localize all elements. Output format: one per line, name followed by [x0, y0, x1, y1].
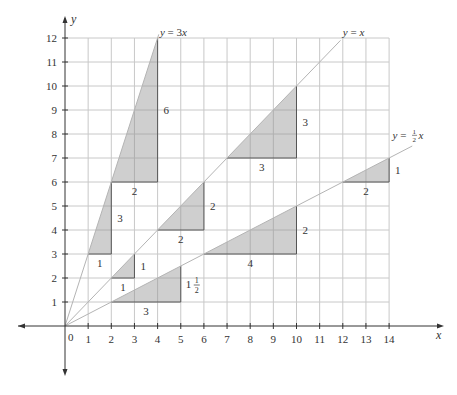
- y-axis-arrow-up-icon: [63, 16, 68, 23]
- triangle-rise-label: 1: [186, 278, 192, 290]
- series-line: [65, 40, 340, 326]
- fraction-num: 1: [413, 128, 417, 136]
- x-tick-label: 11: [314, 333, 325, 345]
- triangle-rise-fraction-num: 1: [195, 276, 199, 285]
- triangle-run-label: 2: [132, 185, 138, 197]
- y-axis-arrow-down-icon: [63, 369, 68, 376]
- x-tick-label: 13: [360, 333, 372, 345]
- x-tick-label: 12: [337, 333, 348, 345]
- y-tick-label: 10: [46, 80, 58, 92]
- x-axis-arrow-left-icon: [18, 324, 25, 329]
- y-tick-label: 2: [52, 272, 58, 284]
- y-tick-label: 1: [52, 296, 58, 308]
- x-tick-label: 6: [201, 333, 207, 345]
- triangle-run-label: 4: [247, 257, 253, 269]
- triangle-rise-fraction-den: 2: [195, 286, 199, 295]
- x-tick-label: 14: [384, 333, 396, 345]
- axes: [18, 16, 444, 376]
- x-tick-label: 10: [291, 333, 303, 345]
- x-tick-label: 1: [85, 333, 91, 345]
- y-tick-label: 8: [52, 128, 58, 140]
- x-tick-label: 8: [247, 333, 253, 345]
- triangle-run-label: 3: [143, 305, 149, 317]
- triangle-rise-label: 1: [395, 164, 401, 176]
- y-tick-label: 9: [52, 104, 58, 116]
- series-equation-label: y =: [392, 129, 407, 141]
- triangle-rise-label: 1: [140, 260, 146, 272]
- y-tick-label: 5: [52, 200, 58, 212]
- triangle-run-label: 1: [97, 257, 103, 269]
- y-tick-label: 6: [52, 176, 58, 188]
- y-tick-label: 3: [52, 248, 58, 260]
- series-equation-label: y = x: [342, 26, 365, 38]
- slope-triangles-chart: 1326112233311242211234567891011121314123…: [0, 0, 457, 395]
- triangle-run-label: 2: [178, 233, 184, 245]
- x-tick-label: 3: [132, 333, 138, 345]
- y-tick-label: 11: [46, 56, 57, 68]
- y-tick-label: 12: [46, 32, 57, 44]
- triangle-rise-label: 2: [303, 224, 309, 236]
- series-equation-label: y = 3x: [159, 26, 187, 38]
- y-tick-label: 4: [52, 224, 58, 236]
- x-axis-label: x: [435, 328, 442, 342]
- slope-triangles: [88, 38, 389, 302]
- origin-label: 0: [68, 331, 74, 343]
- triangle-rise-label: 3: [303, 116, 309, 128]
- x-tick-label: 2: [109, 333, 115, 345]
- triangle-run-label: 1: [120, 281, 126, 293]
- triangle-rise-label: 2: [210, 200, 216, 212]
- x-tick-label: 5: [178, 333, 184, 345]
- x-tick-label: 7: [224, 333, 230, 345]
- equation-x: x: [418, 129, 424, 141]
- fraction-den: 2: [413, 136, 417, 144]
- y-axis-label: y: [70, 12, 77, 26]
- triangle-rise-label: 6: [164, 104, 170, 116]
- triangle-rise-label: 3: [117, 212, 123, 224]
- chart-canvas: 1326112233311242211234567891011121314123…: [0, 0, 457, 395]
- x-tick-label: 9: [271, 333, 277, 345]
- triangle-run-label: 2: [363, 185, 369, 197]
- y-tick-label: 7: [52, 152, 58, 164]
- triangle-run-label: 3: [259, 161, 265, 173]
- x-tick-label: 4: [155, 333, 161, 345]
